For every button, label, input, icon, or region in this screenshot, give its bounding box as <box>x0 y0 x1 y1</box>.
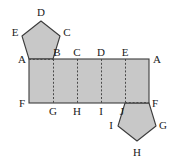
label-I-bottom-edge: I <box>99 106 103 117</box>
label-D-top-pentagon: D <box>37 7 45 18</box>
label-A-left: A <box>18 54 26 65</box>
label-E-top-edge: E <box>122 47 129 58</box>
label-C-top-edge: C <box>73 47 80 58</box>
geometry-net-diagram: DECABCDEAFGHIJFIGH <box>0 0 172 162</box>
label-H-bottom-edge: H <box>73 106 81 117</box>
label-C-top-pentagon: C <box>63 27 70 38</box>
label-I-bottom-pentagon: I <box>109 120 113 131</box>
label-D-top-edge: D <box>97 47 105 58</box>
label-F-right: F <box>152 98 158 109</box>
label-J-bottom-edge: J <box>120 106 124 117</box>
label-H-bottom-pentagon: H <box>133 147 141 158</box>
lateral-faces-rectangle <box>29 59 149 103</box>
label-G-bottom-pentagon: G <box>159 120 167 131</box>
label-A-right: A <box>153 54 161 65</box>
label-F-left: F <box>19 98 25 109</box>
label-E-top-pentagon: E <box>12 27 19 38</box>
net-drawing-canvas <box>0 0 172 162</box>
label-G-bottom-edge: G <box>49 106 57 117</box>
label-B-top-edge: B <box>53 47 60 58</box>
